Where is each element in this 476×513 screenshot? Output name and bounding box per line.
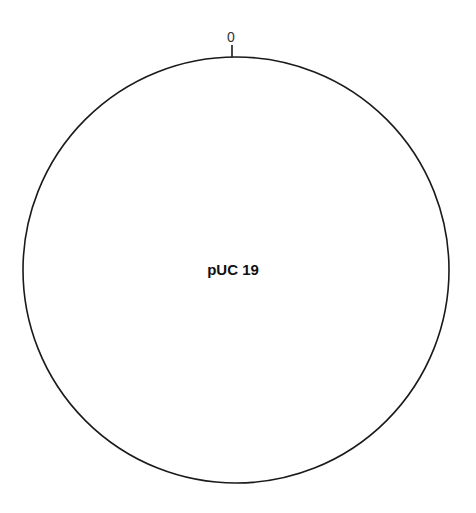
plasmid-map: 0 pUC 19 xyxy=(0,0,476,513)
plasmid-name-label: pUC 19 xyxy=(207,261,259,278)
origin-position-label: 0 xyxy=(227,29,235,45)
